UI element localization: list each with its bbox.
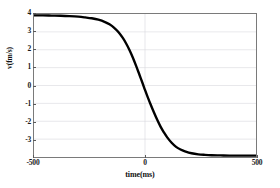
y-tick-mark xyxy=(33,13,36,14)
y-tick-mark xyxy=(33,31,36,32)
y-tick-label: 4 xyxy=(1,9,31,17)
y-tick-mark xyxy=(33,86,36,87)
plot-area xyxy=(33,13,257,158)
y-tick-mark xyxy=(33,140,36,141)
figure-chart: 43210-1-2-3 -5000500 time(ms) v(fm/s) xyxy=(0,0,280,188)
y-tick-label: -3 xyxy=(1,136,31,144)
data-curve xyxy=(34,14,256,157)
x-tick-mark xyxy=(33,155,34,158)
x-tick-mark xyxy=(145,155,146,158)
y-tick-mark xyxy=(33,104,36,105)
y-axis-label-wrap: v(fm/s) xyxy=(3,23,15,93)
y-tick-mark xyxy=(33,122,36,123)
x-axis-ticks: -5000500 xyxy=(0,158,280,170)
x-axis-label: time(ms) xyxy=(0,170,280,179)
y-tick-label: -2 xyxy=(1,118,31,126)
y-tick-mark xyxy=(33,67,36,68)
x-tick-label: 0 xyxy=(143,159,147,167)
x-tick-mark xyxy=(257,155,258,158)
y-tick-label: -1 xyxy=(1,100,31,108)
x-tick-label: 500 xyxy=(252,159,263,167)
y-axis-label: v(fm/s) xyxy=(5,47,14,69)
y-tick-mark xyxy=(33,49,36,50)
x-tick-label: -500 xyxy=(27,159,40,167)
